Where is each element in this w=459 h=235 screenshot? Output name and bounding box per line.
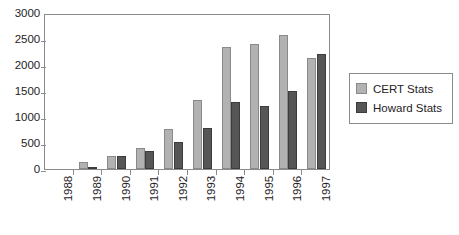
x-tick-mark [187, 170, 188, 175]
y-tick-label: 0 [2, 164, 40, 176]
x-tick-label: 1996 [292, 176, 304, 232]
y-tick-label: 2500 [2, 34, 40, 46]
x-tick-label: 1991 [149, 176, 161, 232]
x-tick-mark [158, 170, 159, 175]
y-tick-mark [41, 93, 46, 94]
legend-label-howard: Howard Stats [373, 102, 442, 114]
x-tick-label: 1994 [235, 176, 247, 232]
x-tick-label: 1992 [178, 176, 190, 232]
bar [279, 35, 288, 169]
y-tick-mark [41, 145, 46, 146]
y-tick-mark [41, 67, 46, 68]
bar [231, 102, 240, 169]
x-tick-mark [73, 170, 74, 175]
legend-label-cert: CERT Stats [373, 83, 433, 95]
x-tick-label: 1988 [63, 176, 75, 232]
y-tick-mark [41, 119, 46, 120]
bar [79, 162, 88, 169]
legend: CERT Stats Howard Stats [349, 73, 453, 124]
y-tick-label: 1500 [2, 86, 40, 98]
y-tick-label: 1000 [2, 112, 40, 124]
bar [203, 128, 212, 169]
bar [317, 54, 326, 169]
x-tick-mark [130, 170, 131, 175]
bar [117, 156, 126, 169]
bar [88, 167, 97, 169]
legend-swatch-cert-icon [356, 83, 367, 94]
bar [164, 129, 173, 169]
bar [174, 142, 183, 169]
y-tick-label: 2000 [2, 60, 40, 72]
y-axis: 050010001500200025003000 [0, 0, 40, 235]
x-tick-label: 1995 [264, 176, 276, 232]
bar [193, 100, 202, 169]
bar [288, 91, 297, 169]
bar [145, 151, 154, 169]
x-tick-mark [101, 170, 102, 175]
x-tick-mark [301, 170, 302, 175]
bar [107, 156, 116, 169]
bar [307, 58, 316, 169]
x-tick-label: 1990 [121, 176, 133, 232]
x-tick-label: 1997 [321, 176, 333, 232]
x-axis: 1988198919901991199219931994199519961997 [44, 176, 330, 235]
bar [260, 106, 269, 169]
y-tick-label: 500 [2, 138, 40, 150]
x-tick-mark [244, 170, 245, 175]
x-tick-label: 1993 [206, 176, 218, 232]
bar [250, 44, 259, 169]
bar [136, 148, 145, 169]
y-tick-mark [41, 41, 46, 42]
x-tick-mark [273, 170, 274, 175]
legend-item: Howard Stats [356, 98, 446, 117]
bar-chart: 050010001500200025003000 198819891990199… [0, 0, 459, 235]
y-tick-label: 3000 [2, 8, 40, 20]
x-tick-label: 1989 [92, 176, 104, 232]
legend-item: CERT Stats [356, 79, 446, 98]
x-tick-mark [216, 170, 217, 175]
legend-swatch-howard-icon [356, 102, 367, 113]
plot-area [44, 14, 330, 170]
bar [222, 47, 231, 169]
